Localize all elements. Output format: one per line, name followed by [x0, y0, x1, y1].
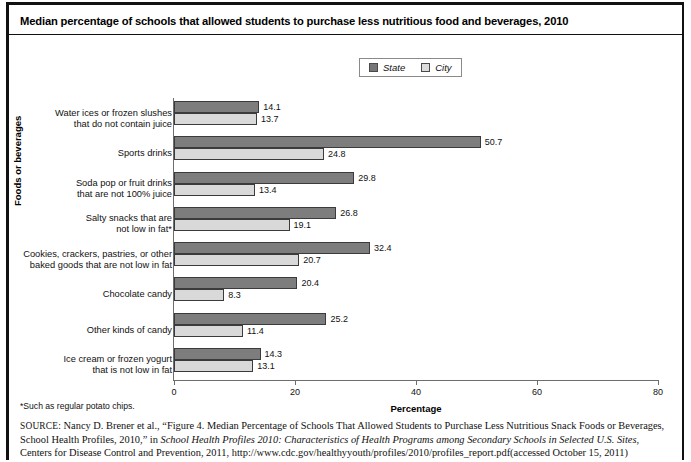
bar-value-label: 20.4 — [301, 277, 319, 289]
bar-state — [174, 172, 354, 184]
title-divider — [9, 34, 682, 35]
bar-value-label: 29.8 — [358, 172, 376, 184]
figure-source: SOURCE: Nancy D. Brener et al., “Figure … — [20, 419, 670, 460]
category-label-line: not low in fat* — [0, 224, 172, 235]
bar-state — [174, 207, 336, 219]
x-tick-label-20: 20 — [290, 387, 300, 397]
plot-area: 020406080 Water ices or frozen slushesth… — [174, 98, 658, 380]
bar-value-label: 19.1 — [294, 219, 312, 231]
bar-city — [174, 219, 290, 231]
bar-value-label: 14.3 — [265, 348, 283, 360]
bar-group: Ice cream or frozen yogurtthat is not lo… — [174, 348, 658, 383]
legend-item-state: State — [369, 62, 405, 73]
bar-group: Chocolate candy20.48.3 — [174, 277, 658, 312]
bar-value-label: 13.7 — [261, 113, 279, 125]
category-label-line: Sports drinks — [0, 148, 172, 159]
x-tick-label-40: 40 — [411, 387, 421, 397]
x-tick-80 — [658, 380, 659, 385]
bar-group: Sports drinks50.724.8 — [174, 136, 658, 171]
bar-group: Salty snacks that arenot low in fat*26.8… — [174, 207, 658, 242]
legend-swatch-state-icon — [369, 63, 378, 72]
bar-city — [174, 360, 253, 372]
bar-city — [174, 289, 224, 301]
bar-value-label: 26.8 — [340, 207, 358, 219]
bar-city — [174, 148, 324, 160]
bar-value-label: 8.3 — [228, 289, 241, 301]
category-label-line: Soda pop or fruit drinks — [0, 178, 172, 189]
bar-value-label: 20.7 — [303, 254, 321, 266]
bar-city — [174, 325, 243, 337]
bar-city — [174, 184, 255, 196]
category-label-line: Ice cream or frozen yogurt — [0, 354, 172, 365]
bar-state — [174, 348, 261, 360]
category-label-line: Water ices or frozen slushes — [0, 108, 172, 119]
bar-group: Soda pop or fruit drinksthat are not 100… — [174, 172, 658, 207]
bar-group: Water ices or frozen slushesthat do not … — [174, 101, 658, 136]
category-label-line: that do not contain juice — [0, 119, 172, 130]
legend-label-city: City — [435, 62, 451, 73]
bar-state — [174, 101, 259, 113]
bar-value-label: 32.4 — [374, 242, 392, 254]
x-tick-label-0: 0 — [171, 387, 176, 397]
bar-group: Other kinds of candy25.211.4 — [174, 313, 658, 348]
bar-state — [174, 277, 297, 289]
x-tick-label-80: 80 — [653, 387, 663, 397]
bar-value-label: 13.4 — [259, 184, 277, 196]
source-prefix: SOURCE: — [20, 421, 61, 431]
category-label: Cookies, crackers, pastries, or otherbak… — [0, 249, 172, 271]
category-label-line: Cookies, crackers, pastries, or other — [0, 249, 172, 260]
bar-city — [174, 254, 299, 266]
bar-city — [174, 113, 257, 125]
bar-value-label: 13.1 — [257, 360, 275, 372]
frame-top-border — [6, 2, 684, 5]
category-label: Salty snacks that arenot low in fat* — [0, 213, 172, 235]
category-label-line: Chocolate candy — [0, 289, 172, 300]
figure-footnote: *Such as regular potato chips. — [20, 401, 135, 411]
bar-group: Cookies, crackers, pastries, or otherbak… — [174, 242, 658, 277]
x-axis-title: Percentage — [174, 403, 658, 414]
category-label: Soda pop or fruit drinksthat are not 100… — [0, 178, 172, 200]
bar-value-label: 14.1 — [263, 101, 281, 113]
x-tick-label-60: 60 — [532, 387, 542, 397]
bar-value-label: 25.2 — [330, 313, 348, 325]
bar-state — [174, 242, 370, 254]
bar-value-label: 24.8 — [328, 148, 346, 160]
category-label: Sports drinks — [0, 148, 172, 159]
category-label-line: baked goods that are not low in fat — [0, 260, 172, 271]
category-label-line: Salty snacks that are — [0, 213, 172, 224]
figure-page: Median percentage of schools that allowe… — [0, 0, 691, 462]
category-label-line: that are not 100% juice — [0, 189, 172, 200]
legend-item-city: City — [421, 62, 451, 73]
figure-title: Median percentage of schools that allowe… — [20, 14, 665, 28]
category-label: Ice cream or frozen yogurtthat is not lo… — [0, 354, 172, 376]
category-label-line: Other kinds of candy — [0, 325, 172, 336]
bar-state — [174, 136, 481, 148]
bar-value-label: 50.7 — [485, 136, 503, 148]
category-label: Water ices or frozen slushesthat do not … — [0, 108, 172, 130]
legend-swatch-city-icon — [421, 63, 430, 72]
chart-container: State City Foods or beverages 020406080 … — [0, 36, 691, 396]
category-label: Chocolate candy — [0, 289, 172, 300]
bar-state — [174, 313, 326, 325]
category-label: Other kinds of candy — [0, 325, 172, 336]
source-title-italic: School Health Profiles 2010: Characteris… — [161, 434, 637, 445]
legend-label-state: State — [383, 62, 405, 73]
category-label-line: that is not low in fat — [0, 365, 172, 376]
chart-legend: State City — [359, 58, 462, 77]
bar-value-label: 11.4 — [247, 325, 264, 337]
